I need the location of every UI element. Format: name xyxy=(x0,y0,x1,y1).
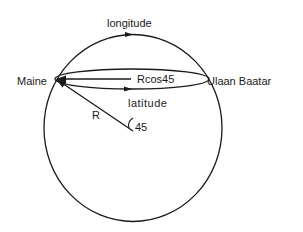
angle-label: 45 xyxy=(135,121,147,133)
radius-label: R xyxy=(92,109,100,121)
longitude-label: longitude xyxy=(107,17,152,29)
maine-label: Maine xyxy=(17,75,47,87)
latitude-label: latitude xyxy=(128,97,167,109)
ulaan-baatar-label: Ulaan Baatar xyxy=(207,75,271,87)
longitude-arrowhead-icon xyxy=(125,32,133,37)
rcos45-label: Rcos45 xyxy=(136,73,175,85)
globe-circle xyxy=(44,35,222,222)
globe-drawing xyxy=(0,0,303,232)
globe-diagram: longitude Maine Ulaan Baatar Rcos45 lati… xyxy=(0,0,303,232)
latitude-arrowhead-icon xyxy=(124,87,132,92)
angle-arc xyxy=(129,118,134,128)
